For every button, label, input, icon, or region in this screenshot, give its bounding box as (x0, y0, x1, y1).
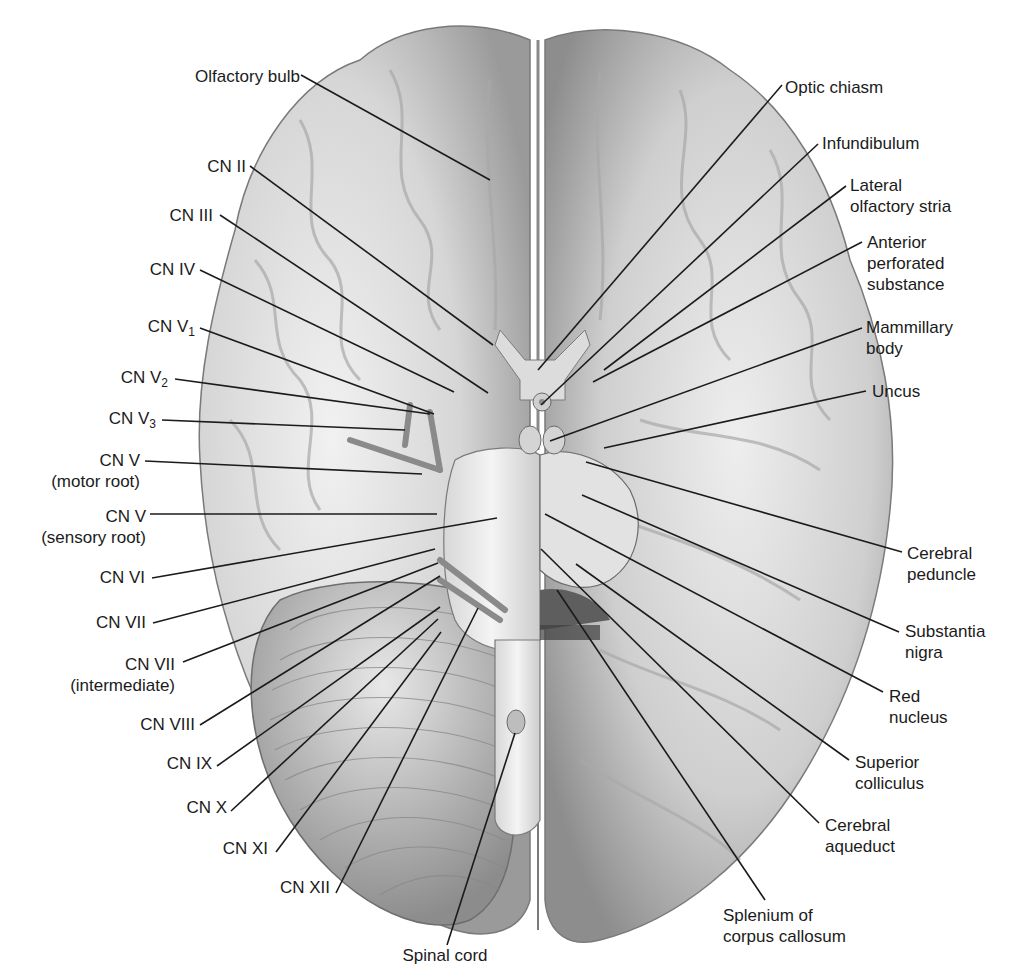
label-cn-xi: CN XI (208, 838, 268, 859)
label-mammillary-body: Mammillarybody (866, 317, 953, 359)
label-cn-ii: CN II (180, 156, 246, 177)
label-cerebral-aqueduct: Cerebralaqueduct (825, 815, 895, 857)
leader-line (604, 391, 866, 448)
leader-line (301, 75, 490, 180)
label-uncus: Uncus (872, 381, 920, 402)
label-cn-v-motor-root: CN V(motor root) (32, 450, 140, 492)
leader-line (541, 144, 818, 405)
label-cn-vii-intermediate: CN VII(intermediate) (45, 654, 175, 696)
label-superior-colliculus: Superiorcolliculus (855, 752, 924, 794)
leader-line (550, 328, 862, 441)
label-splenium-of-corpus-callosum: Splenium ofcorpus callosum (723, 905, 846, 947)
label-cn-ix: CN IX (150, 753, 212, 774)
leader-line (153, 549, 435, 623)
label-cn-vii: CN VII (80, 612, 146, 633)
leader-line (557, 590, 765, 900)
label-cerebral-peduncle: Cerebralpeduncle (907, 543, 976, 585)
leader-line (152, 518, 497, 578)
brain-diagram: Olfactory bulb CN II CN III CN IV CN V1 … (0, 0, 1018, 977)
label-cn-viii: CN VIII (120, 714, 195, 735)
leader-line (183, 563, 438, 662)
leader-line (217, 607, 440, 766)
label-infundibulum: Infundibulum (822, 133, 919, 154)
label-substantia-nigra: Substantianigra (905, 621, 985, 663)
label-cn-v2: CN V2 (100, 367, 168, 388)
label-cn-iv: CN IV (120, 259, 195, 280)
label-cn-vi: CN VI (80, 567, 145, 588)
leader-line (336, 608, 478, 893)
leader-line (604, 186, 846, 370)
leader-line (582, 495, 899, 632)
leader-line (586, 462, 902, 552)
leader-line (200, 328, 434, 414)
label-cn-iii: CN III (140, 205, 213, 226)
label-cn-x: CN X (175, 797, 227, 818)
leader-line (145, 461, 422, 474)
leader-line (231, 619, 438, 811)
label-olfactory-bulb: Olfactory bulb (160, 66, 300, 87)
label-cn-xii: CN XII (270, 877, 330, 898)
label-anterior-perforated-substance: Anteriorperforatedsubstance (867, 232, 945, 295)
label-optic-chiasm: Optic chiasm (785, 77, 883, 98)
label-cn-v3: CN V3 (90, 408, 156, 429)
label-red-nucleus: Rednucleus (889, 686, 948, 728)
leader-line (593, 242, 862, 382)
leader-line (250, 166, 493, 345)
leader-line (175, 379, 430, 414)
leader-line (447, 733, 515, 945)
label-lateral-olfactory-stria: Lateralolfactory stria (850, 175, 951, 217)
leader-line (162, 420, 405, 430)
label-spinal-cord: Spinal cord (390, 945, 500, 966)
label-cn-v-sensory-root: CN V(sensory root) (18, 506, 146, 548)
label-cn-v1: CN V1 (110, 316, 195, 337)
leader-line (541, 549, 819, 823)
